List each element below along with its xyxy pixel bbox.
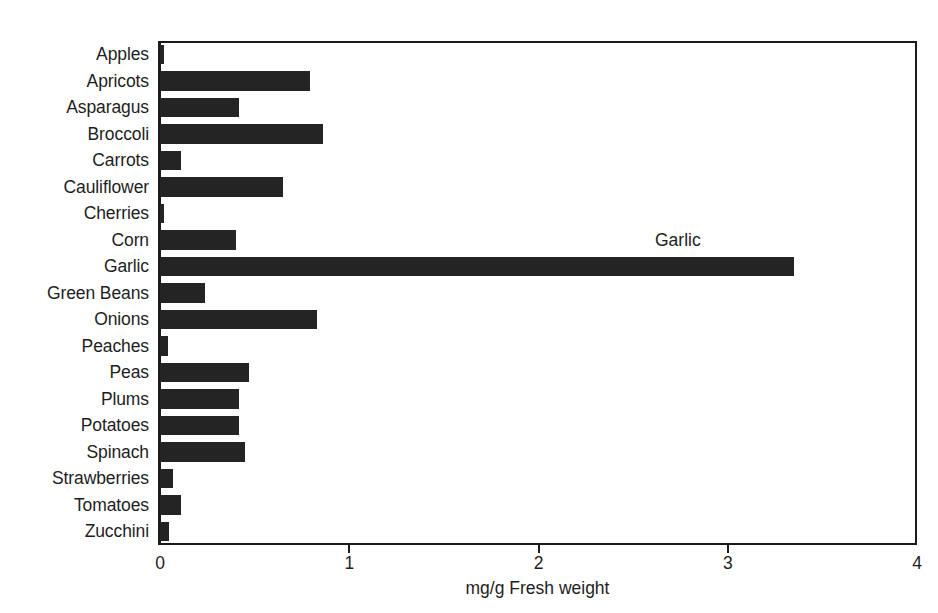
bar-track — [160, 412, 917, 439]
category-label: Cherries — [84, 200, 149, 227]
bar — [160, 469, 173, 488]
bar-track — [160, 253, 917, 280]
category-label: Apples — [96, 41, 149, 68]
bar — [160, 71, 310, 90]
category-label: Garlic — [104, 253, 149, 280]
bar-row: Peaches — [0, 333, 938, 360]
bar — [160, 310, 317, 329]
bar-track — [160, 147, 917, 174]
bar — [160, 257, 794, 276]
bar-row: Green Beans — [0, 280, 938, 307]
bar-track — [160, 227, 917, 254]
x-tick-label: 0 — [155, 553, 165, 574]
bar — [160, 495, 181, 514]
x-tick-label: 1 — [344, 553, 354, 574]
bar — [160, 442, 245, 461]
category-label: Asparagus — [66, 94, 149, 121]
bar-track — [160, 200, 917, 227]
bar-row: Asparagus — [0, 94, 938, 121]
bar-track — [160, 333, 917, 360]
x-tick-mark — [727, 545, 729, 553]
bar — [160, 283, 205, 302]
bar-row: Potatoes — [0, 412, 938, 439]
x-axis: 01234 — [158, 545, 917, 575]
bar-track — [160, 121, 917, 148]
bar-row: Spinach — [0, 439, 938, 466]
category-label: Potatoes — [81, 412, 149, 439]
x-axis-title: mg/g Fresh weight — [158, 578, 917, 599]
bar — [160, 389, 239, 408]
x-tick-label: 3 — [723, 553, 733, 574]
category-label: Apricots — [87, 68, 149, 95]
bar — [160, 363, 249, 382]
x-tick-label: 2 — [534, 553, 544, 574]
bar-track — [160, 439, 917, 466]
x-tick-mark — [538, 545, 540, 553]
bar-track — [160, 94, 917, 121]
bar — [160, 416, 239, 435]
bar-track — [160, 492, 917, 519]
category-label: Corn — [111, 227, 149, 254]
bar — [160, 124, 323, 143]
bar-track — [160, 386, 917, 413]
bar-row: Apples — [0, 41, 938, 68]
category-label: Plums — [101, 386, 149, 413]
bar-track — [160, 280, 917, 307]
bar-track — [160, 174, 917, 201]
bar — [160, 45, 164, 64]
bar-row: Cherries — [0, 200, 938, 227]
bar-row: Corn — [0, 227, 938, 254]
bar-row: Strawberries — [0, 465, 938, 492]
bar-chart: ApplesApricotsAsparagusBroccoliCarrotsCa… — [0, 0, 938, 613]
bar — [160, 522, 169, 541]
bar-row: Onions — [0, 306, 938, 333]
bar-track — [160, 518, 917, 545]
bar-row: Apricots — [0, 68, 938, 95]
bar-row: Carrots — [0, 147, 938, 174]
bar — [160, 151, 181, 170]
bar-track — [160, 41, 917, 68]
category-label: Cauliflower — [64, 174, 149, 201]
bar-row: Peas — [0, 359, 938, 386]
bar-row: Zucchini — [0, 518, 938, 545]
category-label: Broccoli — [88, 121, 149, 148]
category-label: Green Beans — [47, 280, 149, 307]
bar — [160, 98, 239, 117]
category-label: Strawberries — [52, 465, 149, 492]
bar-track — [160, 465, 917, 492]
category-label: Spinach — [86, 439, 149, 466]
bar-rows: ApplesApricotsAsparagusBroccoliCarrotsCa… — [0, 41, 938, 545]
x-tick-mark — [348, 545, 350, 553]
category-label: Peaches — [82, 333, 149, 360]
bar — [160, 204, 164, 223]
category-label: Carrots — [92, 147, 149, 174]
bar-row: Garlic — [0, 253, 938, 280]
bar — [160, 336, 168, 355]
category-label: Tomatoes — [74, 492, 149, 519]
bar-track — [160, 306, 917, 333]
category-label: Onions — [94, 306, 149, 333]
bar-row: Broccoli — [0, 121, 938, 148]
bar-track — [160, 68, 917, 95]
category-label: Peas — [110, 359, 150, 386]
bar — [160, 230, 236, 249]
bar-track — [160, 359, 917, 386]
bar — [160, 177, 283, 196]
bar-row: Cauliflower — [0, 174, 938, 201]
annotation-garlic: Garlic — [655, 230, 701, 251]
x-tick-label: 4 — [912, 553, 922, 574]
bar-row: Plums — [0, 386, 938, 413]
bar-row: Tomatoes — [0, 492, 938, 519]
category-label: Zucchini — [85, 518, 149, 545]
